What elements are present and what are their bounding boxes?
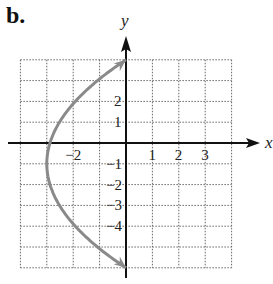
- y-tick-label: −2: [106, 177, 122, 193]
- axes: xy: [8, 11, 273, 278]
- x-tick-label: −2: [65, 147, 81, 163]
- x-axis-label: x: [264, 133, 273, 152]
- x-tick-label: 2: [175, 147, 183, 163]
- y-tick-label: −1: [106, 156, 122, 172]
- x-tick-label: 3: [201, 147, 209, 163]
- x-tick-label: 1: [148, 147, 156, 163]
- y-tick-label: −4: [106, 218, 122, 234]
- y-axis-label: y: [119, 11, 129, 30]
- coordinate-plane: xy −212321−1−2−3−4: [0, 0, 273, 284]
- y-tick-label: −3: [106, 197, 122, 213]
- y-tick-label: 2: [114, 93, 122, 109]
- y-tick-label: 1: [114, 114, 122, 130]
